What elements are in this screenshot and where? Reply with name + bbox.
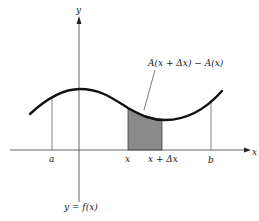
curve-label: y = f(x) <box>63 202 98 212</box>
x-axis-arrow-icon <box>244 148 251 153</box>
y-axis-arrow-icon <box>77 16 82 24</box>
tick-label-x-plus-dx: x + Δx <box>148 154 178 164</box>
area-label: A(x + Δx) − A(x) <box>147 58 224 68</box>
area-function-diagram: y x A(x + Δx) − A(x) a x x + Δx b y = f(… <box>0 0 259 221</box>
x-axis-label: x <box>252 147 257 157</box>
area-label-leader <box>144 70 155 110</box>
shaded-area-strip <box>128 108 162 150</box>
tick-label-x: x <box>125 154 130 164</box>
tick-label-a: a <box>49 154 54 164</box>
function-curve <box>30 89 222 120</box>
y-axis-label: y <box>75 5 82 15</box>
tick-label-b: b <box>208 155 214 165</box>
